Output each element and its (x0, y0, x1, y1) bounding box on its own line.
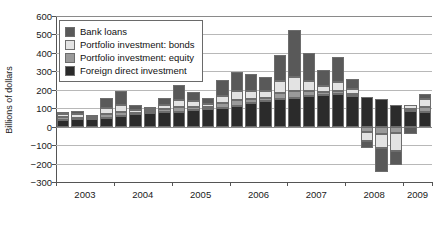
bar-segment (404, 109, 416, 111)
bar-segment (173, 85, 185, 99)
y-axis-tick-label: 100 (36, 103, 52, 114)
bar-segment (317, 70, 329, 85)
bar-segment (71, 119, 83, 126)
x-axis-tick-label: 2009 (407, 189, 428, 200)
x-axis-tick-mark (230, 182, 231, 186)
bar-segment (144, 107, 156, 110)
legend-label: Portfolio investment: bonds (80, 39, 195, 50)
bar-segment (419, 99, 431, 107)
bar-segment (216, 103, 228, 108)
bar-segment (346, 96, 358, 127)
y-axis-tick-label: 400 (36, 47, 52, 58)
bar-segment (288, 91, 300, 98)
y-axis-tick-label: −300 (31, 177, 52, 188)
y-axis-tick-label: 600 (36, 11, 52, 22)
bar-segment (115, 105, 127, 112)
legend-label: Foreign direct investment (80, 65, 187, 76)
bar-segment (288, 77, 300, 91)
bar-segment (274, 55, 286, 81)
bar-segment (202, 107, 214, 109)
bar-segment (158, 109, 170, 112)
legend-item: Foreign direct investment (65, 64, 195, 77)
bar-segment (187, 92, 199, 102)
bar-segment (216, 80, 228, 96)
legend-item: Portfolio investment: equity (65, 51, 195, 64)
y-axis-tick-mark (52, 127, 56, 128)
x-axis-tick-label: 2006 (248, 189, 269, 200)
bar-group (404, 16, 416, 182)
y-axis-tick-mark (52, 90, 56, 91)
legend-item: Bank loans (65, 25, 195, 38)
bar-segment (419, 94, 431, 99)
x-axis-tick-mark (56, 182, 57, 186)
bar-segment (288, 98, 300, 127)
bar-segment (115, 116, 127, 127)
chart-legend: Bank loansPortfolio investment: bondsPor… (59, 20, 203, 82)
bar-segment (346, 79, 358, 89)
bar-segment (303, 81, 315, 91)
bar-segment (115, 91, 127, 105)
bar-group (419, 16, 431, 182)
bar-segment (375, 148, 387, 172)
bar-segment (375, 134, 387, 148)
y-axis-tick-label: −200 (31, 158, 52, 169)
bar-group (317, 16, 329, 182)
x-axis-tick-label: 2004 (132, 189, 153, 200)
bar-segment (274, 81, 286, 92)
bar-group (303, 16, 315, 182)
bar-segment (245, 91, 257, 99)
bar-segment (245, 103, 257, 126)
y-axis-title: Billions of dollars (0, 0, 18, 200)
bar-segment (303, 53, 315, 81)
bar-segment (115, 112, 127, 116)
x-axis-tick-mark (403, 182, 404, 186)
y-axis-tick-label: 300 (36, 66, 52, 77)
bar-segment (231, 72, 243, 91)
bar-segment (390, 133, 402, 151)
y-axis-tick-mark (52, 145, 56, 146)
y-axis-tick-mark (52, 71, 56, 72)
y-axis-tick-label: 200 (36, 84, 52, 95)
bar-segment (57, 117, 69, 120)
bar-segment (303, 91, 315, 96)
bar-segment (129, 114, 141, 126)
bar-segment (245, 74, 257, 91)
bar-segment (187, 110, 199, 127)
bar-segment (390, 151, 402, 166)
bar-segment (390, 105, 402, 127)
x-axis-tick-mark (345, 182, 346, 186)
bar-segment (419, 112, 431, 126)
bar-segment (259, 77, 271, 91)
legend-swatch (65, 53, 75, 63)
bar-group (274, 16, 286, 182)
bar-segment (202, 98, 214, 104)
bar-segment (57, 120, 69, 127)
bar-segment (173, 100, 185, 107)
x-axis-tick-label: 2005 (190, 189, 211, 200)
bar-segment (303, 96, 315, 127)
bar-segment (71, 111, 83, 114)
bar-segment (187, 107, 199, 110)
bar-segment (231, 106, 243, 127)
legend-swatch (65, 40, 75, 50)
bar-group (231, 16, 243, 182)
chart-figure: Billions of dollars 6005004003002001000−… (0, 0, 434, 248)
bar-segment (274, 99, 286, 127)
bar-group (346, 16, 358, 182)
bar-segment (231, 100, 243, 106)
bar-segment (245, 99, 257, 103)
bar-segment (419, 107, 431, 113)
bar-segment (158, 112, 170, 126)
bar-segment (57, 114, 69, 117)
y-axis-title-text: Billions of dollars (4, 66, 14, 134)
bar-segment (129, 110, 141, 113)
bar-segment (71, 118, 83, 120)
y-axis-tick-label: −100 (31, 140, 52, 151)
x-axis (56, 182, 432, 183)
bar-segment (129, 113, 141, 115)
bar-segment (361, 132, 373, 142)
bar-group (216, 16, 228, 182)
bar-segment (274, 93, 286, 99)
bar-group (245, 16, 257, 182)
legend-label: Portfolio investment: equity (80, 52, 194, 63)
